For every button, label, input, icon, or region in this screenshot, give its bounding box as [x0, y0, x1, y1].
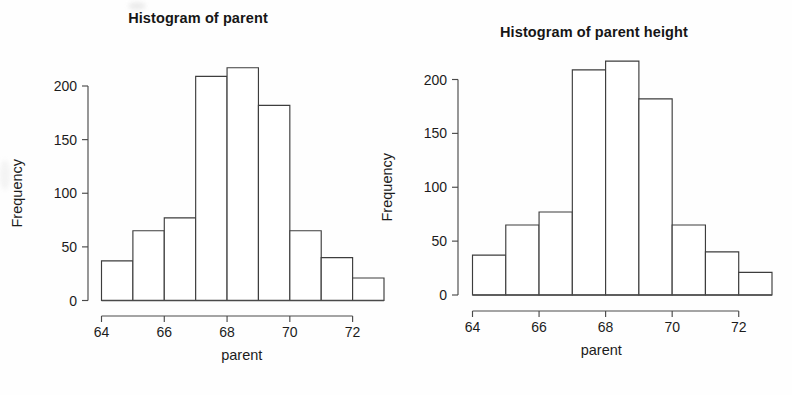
histogram-bar	[321, 258, 352, 301]
y-axis-tick-label: 0	[439, 287, 447, 303]
histogram-bar	[290, 231, 321, 301]
histogram-panel-parent-height: Histogram of parent height 0501001502006…	[396, 0, 792, 395]
x-axis-tick-label: 68	[219, 324, 235, 340]
y-axis-title: Frequency	[9, 158, 25, 227]
histogram-bar	[196, 76, 227, 300]
histogram-bar	[739, 272, 772, 295]
x-axis-tick-label: 70	[282, 324, 298, 340]
y-axis-tick-label: 0	[69, 293, 77, 309]
figure-page: Histogram of parent 05010015020064666870…	[0, 0, 792, 395]
x-axis-title: parent	[221, 347, 262, 363]
x-axis-tick-label: 66	[156, 324, 172, 340]
y-axis-tick-label: 200	[54, 78, 78, 94]
chart-plot-area: 0501001502006466687072parentFrequency	[0, 0, 396, 395]
histogram-bar	[227, 68, 258, 301]
histogram-bar	[672, 225, 705, 295]
histogram-bar	[133, 231, 164, 301]
x-axis-tick-label: 66	[531, 319, 547, 335]
y-axis-tick-label: 150	[424, 125, 448, 141]
histogram-bar	[353, 278, 384, 301]
y-axis-tick-label: 150	[54, 132, 78, 148]
histogram-bar	[473, 255, 506, 295]
histogram-panel-parent: Histogram of parent 05010015020064666870…	[0, 0, 396, 395]
histogram-bar	[539, 212, 572, 295]
histogram-bar	[258, 105, 289, 300]
chart-plot-area: 0501001502006466687072parentFrequency	[396, 0, 792, 395]
x-axis-tick-label: 64	[465, 319, 481, 335]
histogram-bar	[164, 218, 195, 301]
x-axis-tick-label: 64	[94, 324, 110, 340]
x-axis-tick-label: 70	[664, 319, 680, 335]
histogram-bar	[606, 61, 639, 295]
bars-group	[473, 61, 773, 295]
x-axis-title: parent	[581, 342, 622, 358]
histogram-bar	[506, 225, 539, 295]
x-axis-tick-label: 68	[598, 319, 614, 335]
histogram-bar	[102, 261, 133, 301]
histogram-bar	[639, 99, 672, 295]
x-axis-tick-label: 72	[731, 319, 747, 335]
y-axis-tick-label: 200	[424, 72, 448, 88]
y-axis-tick-label: 50	[431, 233, 447, 249]
histogram-bar	[572, 70, 605, 295]
histogram-bar	[705, 252, 738, 295]
y-axis-tick-label: 50	[61, 239, 77, 255]
y-axis-tick-label: 100	[54, 185, 78, 201]
x-axis-tick-label: 72	[345, 324, 361, 340]
y-axis-title: Frequency	[379, 152, 395, 221]
y-axis-tick-label: 100	[424, 179, 448, 195]
bars-group	[102, 68, 385, 301]
